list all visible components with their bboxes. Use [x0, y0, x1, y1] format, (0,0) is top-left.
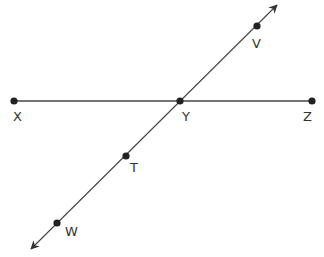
labels: VXYZTW [13, 36, 312, 239]
point-label-w: W [65, 224, 78, 239]
point-label-y: Y [181, 109, 190, 124]
point-y-dot-icon [176, 97, 183, 104]
point-w-dot-icon [53, 219, 60, 226]
lines [31, 5, 277, 249]
point-t-dot-icon [122, 152, 129, 159]
point-v-dot-icon [253, 22, 260, 29]
point-label-z: Z [303, 109, 312, 124]
geometry-diagram: VXYZTW [0, 0, 324, 257]
point-x-dot-icon [10, 97, 17, 104]
line-vw [31, 5, 277, 249]
point-label-x: X [13, 109, 22, 124]
point-z-dot-icon [308, 97, 315, 104]
points [10, 22, 315, 226]
point-label-t: T [129, 160, 138, 175]
point-label-v: V [252, 36, 261, 51]
